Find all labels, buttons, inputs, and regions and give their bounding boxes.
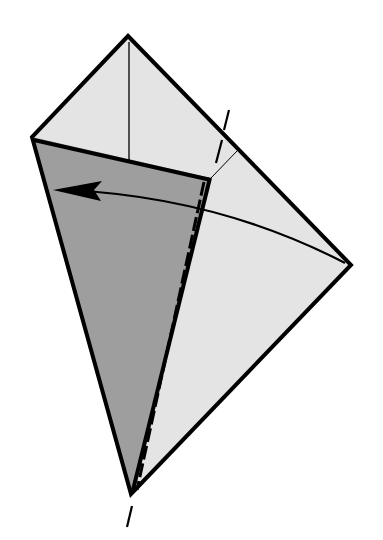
diagram-svg — [0, 0, 383, 540]
origami-diagram — [0, 0, 383, 540]
fold-guide-bottom-dash — [127, 506, 132, 527]
fold-guide-top-dash-1 — [224, 110, 229, 130]
